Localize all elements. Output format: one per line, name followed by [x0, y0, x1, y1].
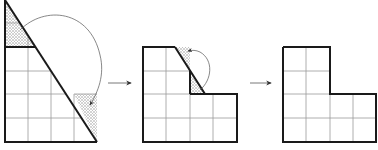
- figure-intermediate: [143, 47, 237, 142]
- outline: [283, 47, 376, 142]
- figure-l-shape: [283, 47, 376, 142]
- rotation-arrow: [20, 15, 102, 105]
- figure-right-triangle: [5, 0, 102, 142]
- dissection-diagram: [0, 0, 378, 150]
